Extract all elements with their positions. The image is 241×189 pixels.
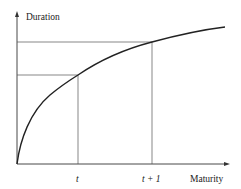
tick-label-t1: t + 1 <box>142 174 161 184</box>
x-axis-label: Maturity <box>190 174 223 184</box>
y-axis-label: Duration <box>26 12 60 22</box>
duration-maturity-diagram: Duration Maturity t t + 1 <box>0 0 241 189</box>
x-axis-arrow-icon <box>224 162 230 166</box>
tick-label-t: t <box>76 174 79 184</box>
y-axis-arrow-icon <box>15 11 19 17</box>
duration-curve <box>17 27 225 164</box>
